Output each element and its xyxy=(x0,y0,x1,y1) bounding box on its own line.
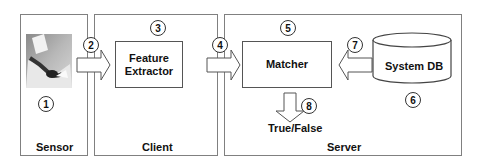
step-number-6: 6 xyxy=(405,92,421,108)
step-number-5: 5 xyxy=(280,20,296,36)
step-number-3: 3 xyxy=(150,20,166,36)
feature-extractor-box: Feature Extractor xyxy=(115,41,183,88)
step-number-7: 7 xyxy=(347,37,363,53)
system-db-label: System DB xyxy=(385,60,443,72)
step-number-8: 8 xyxy=(301,98,317,114)
feature-extractor-label-line2: Extractor xyxy=(125,65,173,78)
sensor-panel-label: Sensor xyxy=(36,141,73,153)
step-number-4: 4 xyxy=(212,37,228,53)
server-panel-label: Server xyxy=(327,141,361,153)
arrow-db-to-matcher xyxy=(338,50,372,80)
system-db-cylinder-icon xyxy=(372,32,452,86)
output-label: True/False xyxy=(268,122,322,134)
arrow-client-to-server xyxy=(207,50,241,80)
feature-extractor-label-line1: Feature xyxy=(125,52,173,65)
fingerprint-sensor-icon xyxy=(26,34,72,88)
step-number-1: 1 xyxy=(38,96,54,112)
step-number-2: 2 xyxy=(83,37,99,53)
matcher-label: Matcher xyxy=(266,58,308,71)
matcher-box: Matcher xyxy=(242,41,332,88)
arrow-sensor-to-client xyxy=(77,50,111,80)
client-panel-label: Client xyxy=(142,141,173,153)
